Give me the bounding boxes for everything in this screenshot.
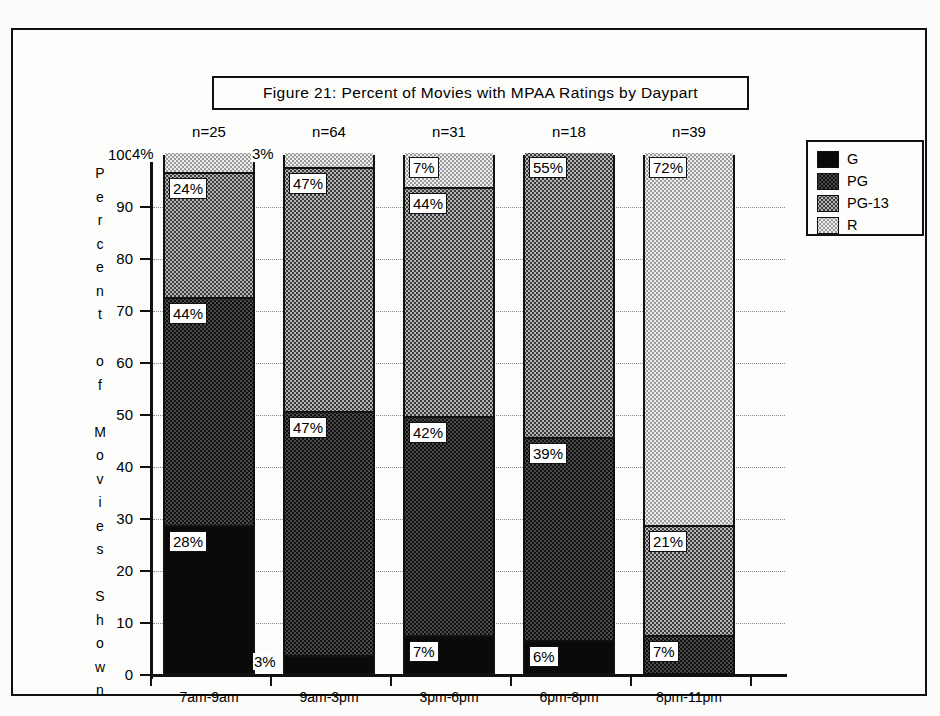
y-axis-tick-label: 50 xyxy=(87,407,133,422)
figure-frame: Figure 21: Percent of Movies with MPAA R… xyxy=(11,28,927,696)
y-axis-title-letter: M xyxy=(91,421,109,445)
y-axis-tick-label: 30 xyxy=(87,511,133,526)
y-axis-tick-label: 0 xyxy=(87,667,133,682)
x-axis-tick xyxy=(630,675,632,686)
segment-value-label-outside: 3% xyxy=(251,145,275,162)
bar-segment-pg13[interactable]: 21% xyxy=(645,527,733,636)
legend-item-label: G xyxy=(847,152,858,167)
segment-value-label-outside: 4% xyxy=(131,145,155,162)
x-axis-category-label: 6pm-8pm xyxy=(509,689,629,705)
segment-value-label: 6% xyxy=(529,646,559,667)
bar-segment-pg[interactable]: 7% xyxy=(645,637,733,673)
segment-value-label: 24% xyxy=(169,178,207,199)
bar-segment-pg13[interactable]: 55% xyxy=(525,153,613,439)
segment-value-label: 44% xyxy=(409,193,447,214)
legend-item-pg13[interactable]: PG-13 xyxy=(817,193,922,214)
bar-sample-size-label: n=64 xyxy=(283,123,375,140)
y-axis-title-letter: o xyxy=(91,632,109,656)
bar-segment-pg13[interactable]: 24% xyxy=(165,174,253,299)
y-axis-title-letter xyxy=(91,327,109,351)
x-axis-tick xyxy=(390,675,392,686)
figure-title-box: Figure 21: Percent of Movies with MPAA R… xyxy=(212,76,749,110)
bar-segment-pg[interactable]: 39% xyxy=(525,439,613,642)
bar-sample-size-label: n=25 xyxy=(163,123,255,140)
x-axis-tick xyxy=(510,675,512,686)
legend-item-pg[interactable]: PG xyxy=(817,171,922,192)
y-axis-tick-label: 70 xyxy=(87,303,133,318)
stacked-bar[interactable]: 7%42%44%7% xyxy=(403,155,495,675)
bar-segment-pg13[interactable]: 44% xyxy=(405,189,493,418)
bar-sample-size-label: n=31 xyxy=(403,123,495,140)
bar-sample-size-label: n=18 xyxy=(523,123,615,140)
x-axis-category-label: 7am-9am xyxy=(149,689,269,705)
bar-segment-g[interactable]: 28% xyxy=(165,527,253,673)
legend-item-label: PG xyxy=(847,174,868,189)
stacked-bar[interactable]: 47%47% xyxy=(283,155,375,675)
solid-black-swatch xyxy=(817,151,839,168)
bar-segment-g[interactable] xyxy=(285,657,373,673)
legend-item-g[interactable]: G xyxy=(817,149,922,170)
stacked-bar[interactable]: 28%44%24% xyxy=(163,155,255,675)
segment-value-label: 7% xyxy=(409,641,439,662)
bar-segment-g[interactable]: 7% xyxy=(405,637,493,673)
light-dither-swatch xyxy=(817,217,839,234)
segment-value-label: 21% xyxy=(649,531,687,552)
bar-segment-pg[interactable]: 47% xyxy=(285,413,373,657)
y-axis-tick-label: 100 xyxy=(87,147,133,162)
segment-value-label: 47% xyxy=(289,417,327,438)
segment-value-label: 44% xyxy=(169,303,207,324)
y-axis-tick-label: 90 xyxy=(87,199,133,214)
legend-item-label: PG-13 xyxy=(847,196,889,211)
legend: GPGPG-13R xyxy=(806,140,924,236)
segment-value-label: 39% xyxy=(529,443,567,464)
bar-segment-pg[interactable]: 44% xyxy=(165,299,253,528)
segment-value-label-outside: 3% xyxy=(253,653,277,670)
stacked-bar[interactable]: 7%21%72% xyxy=(643,155,735,675)
dark-dither-swatch xyxy=(817,173,839,190)
x-axis-tick xyxy=(150,675,152,686)
segment-value-label: 55% xyxy=(529,157,567,178)
bar-segment-r[interactable] xyxy=(285,153,373,169)
y-axis-tick-label: 10 xyxy=(87,615,133,630)
segment-value-label: 7% xyxy=(649,641,679,662)
medium-dither-swatch xyxy=(817,195,839,212)
segment-value-label: 42% xyxy=(409,422,447,443)
legend-item-r[interactable]: R xyxy=(817,215,922,236)
bar-segment-r[interactable]: 72% xyxy=(645,153,733,527)
x-axis-tick xyxy=(270,675,272,686)
y-axis-tick-label: 80 xyxy=(87,251,133,266)
bar-segment-r[interactable]: 7% xyxy=(405,153,493,189)
bar-segment-g[interactable]: 6% xyxy=(525,642,613,673)
x-axis-category-label: 8pm-11pm xyxy=(629,689,749,705)
segment-value-label: 47% xyxy=(289,173,327,194)
y-axis-tick-label: 20 xyxy=(87,563,133,578)
legend-item-label: R xyxy=(847,218,857,233)
y-axis-title-letter: n xyxy=(91,280,109,304)
y-axis-title-letter: S xyxy=(91,585,109,609)
x-axis-category-label: 3pm-6pm xyxy=(389,689,509,705)
plot-area: n=2528%44%24%4%7am-9amn=6447%47%3%3%9am-… xyxy=(151,155,785,675)
bar-segment-r[interactable] xyxy=(165,153,253,174)
bar-segment-pg13[interactable]: 47% xyxy=(285,169,373,413)
segment-value-label: 28% xyxy=(169,531,207,552)
x-axis-category-label: 9am-3pm xyxy=(269,689,389,705)
x-axis-tick xyxy=(750,675,752,686)
bar-sample-size-label: n=39 xyxy=(643,123,735,140)
bar-segment-pg[interactable]: 42% xyxy=(405,418,493,636)
stacked-bar[interactable]: 6%39%55% xyxy=(523,155,615,675)
y-axis-title-letter: n xyxy=(91,679,109,703)
y-axis-title-letter: P xyxy=(91,162,109,186)
page-title: Figure 21: Percent of Movies with MPAA R… xyxy=(263,84,698,102)
y-axis-tick-label: 60 xyxy=(87,355,133,370)
segment-value-label: 7% xyxy=(409,157,439,178)
y-axis-title-letter: f xyxy=(91,374,109,398)
y-axis-tick-label: 40 xyxy=(87,459,133,474)
y-axis-title-letter: s xyxy=(91,538,109,562)
segment-value-label: 72% xyxy=(649,157,687,178)
